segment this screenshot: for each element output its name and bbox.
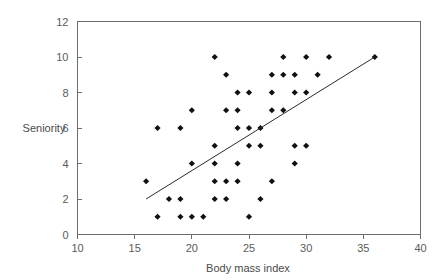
data-point [143, 178, 149, 184]
data-point [154, 125, 160, 131]
data-point [280, 54, 286, 60]
data-point [212, 160, 218, 166]
data-point [234, 178, 240, 184]
data-point [223, 72, 229, 78]
data-point [177, 125, 183, 131]
data-point [189, 107, 195, 113]
data-point [269, 178, 275, 184]
data-point [292, 143, 298, 149]
data-point [154, 214, 160, 220]
data-point [269, 89, 275, 95]
data-point [200, 214, 206, 220]
x-axis-title: Body mass index [206, 262, 290, 274]
x-tick-label-15: 15 [129, 242, 141, 254]
data-point [292, 89, 298, 95]
data-point [257, 196, 263, 202]
data-point [234, 125, 240, 131]
data-point [303, 89, 309, 95]
data-point [280, 72, 286, 78]
data-point [303, 143, 309, 149]
y-tick-label-4: 4 [62, 158, 68, 170]
x-tick-label-30: 30 [300, 242, 312, 254]
x-axis-tick-labels: 10152025303540 [71, 242, 426, 254]
data-point [212, 143, 218, 149]
data-point [269, 107, 275, 113]
data-point [234, 107, 240, 113]
data-point [223, 196, 229, 202]
x-tick-label-25: 25 [243, 242, 255, 254]
x-axis-ticks [78, 235, 421, 239]
data-point [177, 196, 183, 202]
data-point [189, 214, 195, 220]
data-point [189, 160, 195, 166]
scatter-plot-figure: 10152025303540 024681012 Body mass index… [0, 0, 441, 280]
y-tick-label-12: 12 [56, 16, 68, 28]
y-tick-label-10: 10 [56, 51, 68, 63]
data-point [269, 72, 275, 78]
y-tick-label-2: 2 [62, 193, 68, 205]
data-points [143, 54, 378, 220]
data-point [212, 196, 218, 202]
data-point [292, 160, 298, 166]
chart-canvas: 10152025303540 024681012 Body mass index… [0, 0, 441, 280]
data-point [223, 107, 229, 113]
y-tick-label-8: 8 [62, 87, 68, 99]
data-point [234, 89, 240, 95]
x-tick-label-35: 35 [357, 242, 369, 254]
x-tick-label-20: 20 [186, 242, 198, 254]
y-axis-title: Seniority [23, 122, 66, 134]
y-tick-label-0: 0 [62, 229, 68, 241]
data-point [246, 89, 252, 95]
data-point [326, 54, 332, 60]
data-point [315, 72, 321, 78]
x-tick-label-10: 10 [71, 242, 83, 254]
data-point [234, 160, 240, 166]
data-point [166, 196, 172, 202]
data-point [212, 54, 218, 60]
data-point [246, 214, 252, 220]
data-point [223, 178, 229, 184]
data-point [292, 72, 298, 78]
data-point [246, 125, 252, 131]
y-axis-ticks [78, 57, 82, 199]
data-point [257, 143, 263, 149]
data-point [177, 214, 183, 220]
data-point [303, 54, 309, 60]
data-point [212, 178, 218, 184]
data-point [246, 143, 252, 149]
x-tick-label-40: 40 [414, 242, 426, 254]
